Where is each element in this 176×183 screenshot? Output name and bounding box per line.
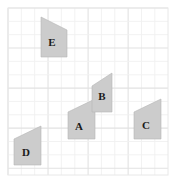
shape-c-label: C <box>142 119 150 131</box>
shape-d: D <box>14 126 41 165</box>
shapes-layer: ABCDE <box>14 17 161 165</box>
shape-c: C <box>134 99 161 139</box>
shape-b: B <box>92 73 112 112</box>
shape-e-label: E <box>48 36 55 48</box>
shape-a: A <box>68 99 95 139</box>
geometry-figure: ABCDE <box>0 0 176 183</box>
shape-b-label: B <box>98 90 106 102</box>
shape-a-label: A <box>75 120 83 132</box>
figure-container: ABCDE <box>0 0 176 183</box>
shape-e: E <box>41 17 67 57</box>
shape-d-label: D <box>22 146 30 158</box>
